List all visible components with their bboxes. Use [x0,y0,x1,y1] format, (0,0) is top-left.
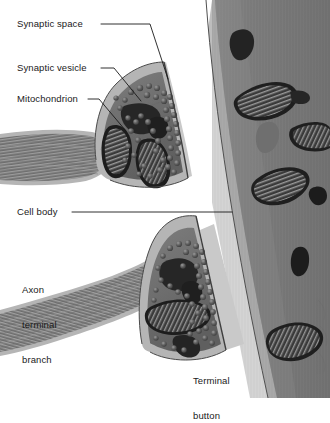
label-axon-line-3: branch [22,354,57,366]
label-axon-line-2: terminal [22,319,57,331]
label-cell-body: Cell body [17,206,58,218]
label-terminal-button: Terminal button [193,352,230,423]
label-terminal-button-line-1: Terminal [193,375,230,387]
label-mitochondrion: Mitochondrion [17,93,78,105]
label-terminal-button-line-2: button [193,410,230,422]
label-synaptic-space: Synaptic space [17,18,83,30]
axon-terminal-branch-upper [0,62,188,188]
label-axon-line-1: Axon [22,284,57,296]
label-synaptic-vesicle: Synaptic vesicle [17,62,87,74]
label-axon-terminal-branch: Axon terminal branch [22,261,57,389]
